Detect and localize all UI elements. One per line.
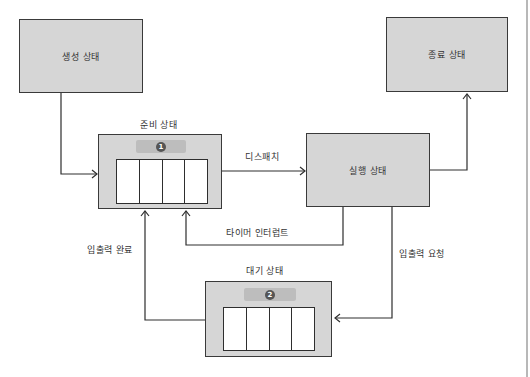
transition-dispatch-label: 디스패치 bbox=[245, 150, 279, 163]
queue-slot bbox=[185, 160, 207, 203]
queue-slot bbox=[224, 308, 247, 350]
state-ready-label: 준비 상태 bbox=[140, 118, 177, 131]
arrow-io-request bbox=[335, 207, 392, 318]
waiting-number-badge: 2 bbox=[265, 290, 275, 300]
transition-timer-interrupt-label: 타이머 인터럽트 bbox=[226, 226, 289, 239]
queue-slot bbox=[140, 160, 163, 203]
queue-slot bbox=[270, 308, 293, 350]
transition-io-complete-label: 입출력 완료 bbox=[87, 243, 133, 256]
waiting-queue bbox=[223, 307, 315, 351]
transition-io-request-label: 입출력 요청 bbox=[399, 247, 445, 260]
waiting-badge-bar: 2 bbox=[244, 288, 296, 301]
state-waiting-label: 대기 상태 bbox=[246, 264, 283, 277]
state-new-label: 생성 상태 bbox=[62, 50, 99, 63]
arrow-running-to-terminated bbox=[430, 94, 467, 170]
arrow-new-to-ready bbox=[61, 93, 97, 174]
state-running: 실행 상태 bbox=[306, 133, 430, 207]
queue-slot bbox=[292, 308, 314, 350]
queue-slot bbox=[117, 160, 140, 203]
process-state-diagram: 생성 상태 종료 상태 준비 상태 1 디스패치 실행 상태 타이머 인터럽트 … bbox=[0, 0, 530, 377]
arrow-io-complete bbox=[145, 211, 205, 320]
state-running-label: 실행 상태 bbox=[349, 164, 386, 177]
page-edge-divider bbox=[526, 0, 528, 377]
state-waiting: 2 bbox=[205, 281, 332, 357]
state-new: 생성 상태 bbox=[19, 19, 143, 93]
ready-badge-bar: 1 bbox=[136, 140, 186, 153]
queue-slot bbox=[163, 160, 186, 203]
state-terminated-label: 종료 상태 bbox=[428, 48, 465, 61]
state-terminated: 종료 상태 bbox=[386, 17, 508, 92]
queue-slot bbox=[247, 308, 270, 350]
ready-number-badge: 1 bbox=[156, 142, 166, 152]
ready-queue bbox=[116, 159, 208, 204]
state-ready: 1 bbox=[98, 134, 222, 209]
